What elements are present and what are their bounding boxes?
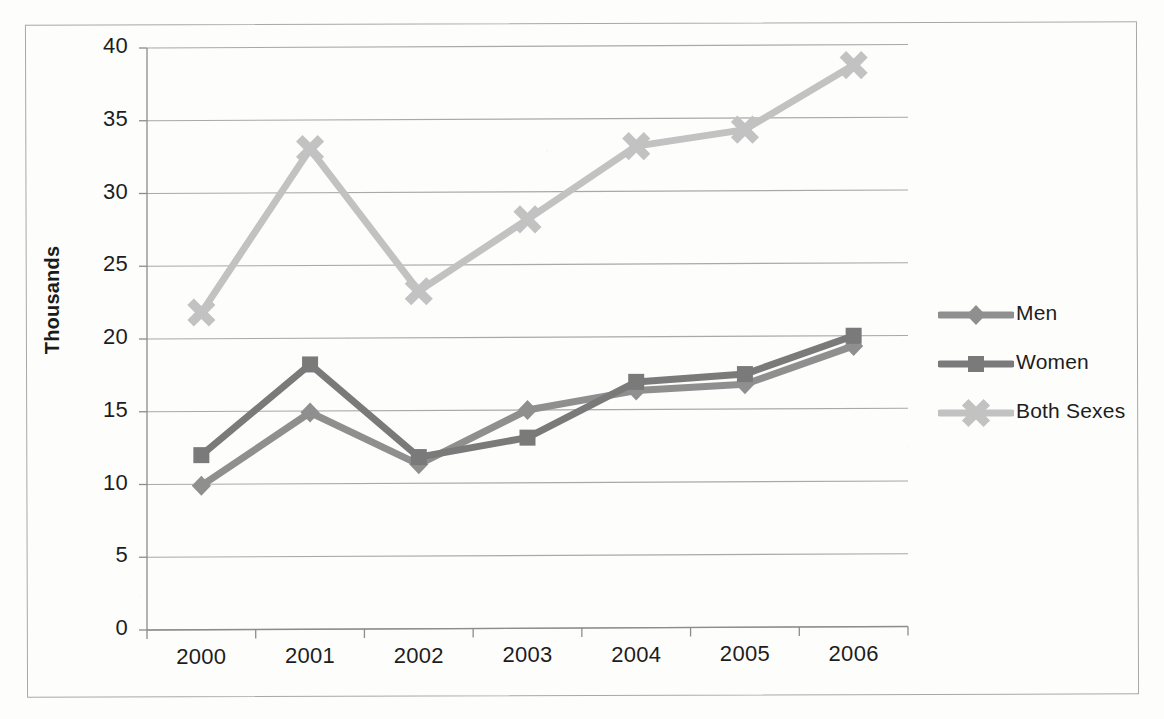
legend-item-label: Men	[1016, 301, 1057, 325]
x-axis-tick-label: 2005	[690, 641, 800, 667]
legend-swatch-square-marker	[938, 347, 1014, 381]
cross-marker	[408, 280, 430, 302]
y-axis-tick-label: 30	[68, 179, 128, 205]
line-chart: Thousands 4035302520151050 2000200120022…	[0, 0, 1164, 719]
square-marker	[302, 356, 318, 372]
series-women	[193, 328, 861, 465]
y-axis-tick-label: 10	[68, 470, 128, 496]
y-axis-tick-label: 0	[68, 615, 128, 641]
square-marker	[846, 328, 862, 344]
y-axis-tick-label: 40	[68, 33, 128, 59]
chart-page: Thousands 4035302520151050 2000200120022…	[0, 0, 1164, 719]
diamond-marker	[966, 305, 985, 325]
square-marker	[520, 430, 536, 446]
square-marker	[628, 374, 644, 390]
series-men	[192, 336, 863, 496]
y-axis-tick-label: 15	[68, 397, 128, 423]
x-axis-tick-label: 2004	[581, 642, 691, 668]
legend-swatch-diamond-marker	[938, 298, 1014, 332]
y-axis-tick-label: 35	[68, 106, 128, 132]
cross-marker	[843, 54, 865, 76]
x-axis-tick-label: 2002	[364, 643, 474, 669]
x-axis-tick-label: 2001	[255, 643, 365, 669]
y-axis-title: Thousands	[41, 246, 64, 354]
x-axis-tick-label: 2003	[473, 642, 583, 668]
y-axis-tick-label: 5	[68, 542, 128, 568]
gridlines	[147, 45, 908, 631]
square-marker	[193, 447, 209, 463]
square-marker	[737, 366, 753, 382]
legend-item-label: Both Sexes	[1016, 399, 1125, 423]
cross-marker	[517, 209, 539, 231]
legend-item-label: Women	[1016, 350, 1089, 374]
axes	[139, 48, 908, 639]
cross-marker	[191, 302, 213, 324]
cross-marker	[299, 138, 321, 160]
y-axis-tick-label: 25	[68, 251, 128, 277]
x-axis-tick-label: 2000	[146, 644, 256, 670]
square-marker	[968, 356, 984, 372]
legend-swatch-cross-marker	[938, 396, 1014, 430]
y-axis-tick-label: 20	[68, 324, 128, 350]
square-marker	[411, 449, 427, 465]
series-both-sexes	[191, 54, 865, 323]
x-axis-tick-label: 2006	[799, 641, 909, 667]
